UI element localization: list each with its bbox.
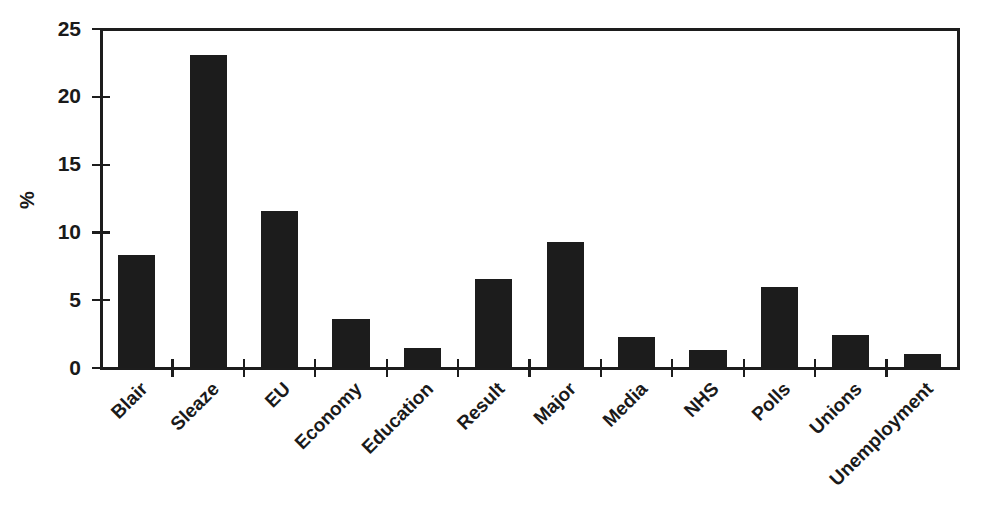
y-tick-label: 25 <box>58 17 82 40</box>
bar-series <box>118 55 941 368</box>
bar <box>404 348 441 368</box>
x-tick-label: Media <box>598 378 651 431</box>
x-tick-label: Result <box>453 378 509 434</box>
bar <box>547 242 584 368</box>
bar <box>118 255 155 368</box>
bar <box>475 279 512 369</box>
y-tick-label: 20 <box>58 84 81 107</box>
bar-chart-figure: 0510152025 BlairSleazeEUEconomyEducation… <box>0 0 984 532</box>
x-tick-label: Unions <box>805 378 865 438</box>
x-tick-label: EU <box>261 378 295 412</box>
x-tick-label: Major <box>529 378 580 429</box>
x-tick-label: Education <box>357 378 437 458</box>
y-tick-label: 0 <box>69 356 81 379</box>
x-tick-label: Blair <box>107 378 152 423</box>
bar <box>761 287 798 368</box>
bar <box>689 350 726 368</box>
x-tick-label: NHS <box>680 378 723 421</box>
bar <box>832 335 869 368</box>
bar <box>261 211 298 368</box>
x-tick-label: Polls <box>747 378 794 425</box>
bar <box>190 55 227 368</box>
bar <box>618 337 655 368</box>
y-tick-label: 10 <box>58 220 81 243</box>
bar <box>332 319 369 368</box>
y-tick-label: 15 <box>58 152 82 175</box>
y-tick-label: 5 <box>69 288 81 311</box>
y-axis-title: % <box>16 191 38 209</box>
x-axis-tick-labels: BlairSleazeEUEconomyEducationResultMajor… <box>107 378 938 490</box>
x-tick-label: Economy <box>290 378 366 454</box>
bar <box>904 354 941 368</box>
plot-area-frame <box>101 29 958 368</box>
x-tick-label: Sleaze <box>166 378 223 435</box>
y-axis-tick-labels: 0510152025 <box>58 17 82 379</box>
chart-canvas: 0510152025 BlairSleazeEUEconomyEducation… <box>0 0 984 532</box>
